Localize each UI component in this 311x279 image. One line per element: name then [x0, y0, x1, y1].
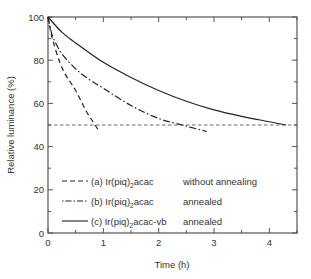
legend-condition: annealed — [183, 196, 222, 207]
y-axis-label: Relative luminance (%) — [5, 76, 16, 174]
series-line-a — [48, 17, 98, 129]
x-axis-label: Time (h) — [154, 259, 189, 270]
data-series — [48, 17, 286, 131]
legend-condition: annealed — [183, 216, 222, 227]
x-tick-labels: 01234 — [45, 237, 272, 248]
y-tick-label: 60 — [33, 98, 44, 109]
legend-label: (b) Ir(piq)2acac — [91, 196, 154, 209]
x-tick-label: 2 — [156, 237, 161, 248]
y-tick-label: 100 — [28, 12, 44, 23]
x-tick-label: 3 — [211, 237, 216, 248]
legend-label: (c) Ir(piq)2acac-vb — [91, 216, 166, 229]
y-tick-label: 0 — [39, 228, 44, 239]
x-tick-label: 1 — [101, 237, 106, 248]
x-tick-label: 4 — [267, 237, 272, 248]
y-tick-label: 80 — [33, 55, 44, 66]
x-tick-label: 0 — [45, 237, 50, 248]
series-line-b — [48, 17, 207, 131]
y-tick-label: 40 — [33, 141, 44, 152]
legend: (a) Ir(piq)2acacwithout annealing(b) Ir(… — [62, 176, 257, 229]
y-tick-label: 20 — [33, 184, 44, 195]
legend-label: (a) Ir(piq)2acac — [91, 176, 154, 189]
series-line-c — [48, 17, 286, 125]
legend-condition: without annealing — [182, 176, 257, 187]
luminance-decay-chart: 01234 020406080100 (a) Ir(piq)2acacwitho… — [0, 0, 311, 279]
y-tick-labels: 020406080100 — [28, 12, 44, 239]
